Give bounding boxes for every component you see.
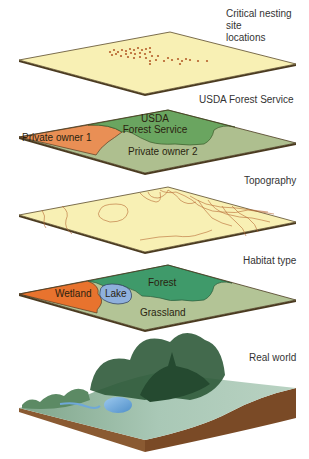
layer-habitat: Wetland Lake Forest Grassland <box>19 265 296 332</box>
caption-line: Topography <box>244 175 296 187</box>
caption-nesting-sites: Critical nesting site locations <box>226 8 309 44</box>
caption-line: locations <box>226 32 309 44</box>
label-private-owner-1: Private owner 1 <box>22 132 92 143</box>
label-grassland: Grassland <box>140 307 186 318</box>
gis-layers-diagram: Private owner 1 USDA Forest Service Priv… <box>0 0 309 459</box>
label-forest: Forest <box>148 277 177 288</box>
caption-line: Critical nesting site <box>226 8 309 32</box>
label-usda-line1: USDA <box>141 113 169 124</box>
lake <box>104 397 132 413</box>
forest-canopy <box>90 333 225 402</box>
caption-line: USDA Forest Service <box>199 94 293 106</box>
layer-topography <box>19 187 296 254</box>
label-usda-line2: Forest Service <box>123 124 188 135</box>
caption-line: Real world <box>249 352 296 364</box>
caption-real-world: Real world <box>249 352 296 364</box>
plane-surface <box>19 187 296 252</box>
label-private-owner-2: Private owner 2 <box>128 146 198 157</box>
label-lake: Lake <box>105 288 127 299</box>
caption-ownership: USDA Forest Service <box>199 94 293 106</box>
label-wetland: Wetland <box>55 288 92 299</box>
layer-ownership: Private owner 1 USDA Forest Service Priv… <box>19 110 296 175</box>
caption-line: Habitat type <box>243 255 296 267</box>
caption-habitat: Habitat type <box>243 255 296 267</box>
caption-topography: Topography <box>244 175 296 187</box>
layer-real-world <box>19 333 296 452</box>
